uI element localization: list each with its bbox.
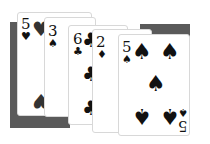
spade-icon: ♠: [48, 38, 58, 49]
spade-icon: ♠: [132, 105, 152, 127]
heart-icon: ♥: [21, 31, 31, 42]
spade-icon: ♠: [160, 105, 180, 127]
spade-icon: ♠: [146, 73, 166, 95]
diamond-icon: ♦: [97, 49, 107, 60]
card-rank: 2: [96, 35, 106, 49]
card-rank: 5: [122, 40, 132, 54]
card-rank-bottom: 5: [178, 119, 188, 133]
spade-icon: ♠: [122, 54, 132, 65]
card-5-spades[interactable]: 5 ♠ ♠ ♠ ♠ ♠ ♠ ♠ 5: [118, 34, 190, 136]
spade-icon: ♠: [132, 41, 152, 63]
card-rank: 5: [21, 17, 31, 31]
spade-icon: ♠: [160, 41, 180, 63]
card-rank: 3: [48, 24, 58, 38]
